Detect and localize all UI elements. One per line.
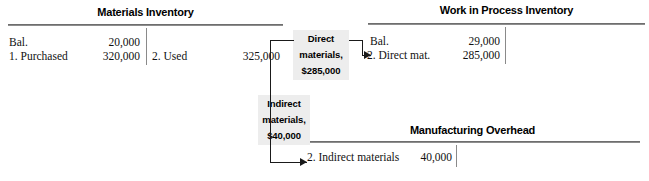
entry-amount-wip-direct-mat: 285,000	[420, 49, 500, 61]
indirect-materials-callout: Indirect materials, $40,000	[258, 95, 310, 145]
connector-direct-materials-drop	[362, 40, 363, 55]
indirect-materials-callout-line1: Indirect	[258, 96, 310, 112]
entry-amount-wip-bal: 29,000	[420, 35, 500, 47]
entry-amount-materials-bal: 20,000	[60, 36, 140, 48]
indirect-materials-callout-line3: $40,000	[258, 128, 310, 144]
arrowhead-to-work-in-process	[364, 51, 371, 59]
account-divider-work-in-process-inventory	[505, 27, 506, 64]
account-rule-materials-inventory	[8, 24, 283, 26]
entry-label-materials-bal: Bal.	[9, 36, 28, 48]
account-title-manufacturing-overhead: Manufacturing Overhead	[305, 124, 640, 136]
t-account-flow-diagram: Materials Inventory Bal. 20,000 1. Purch…	[0, 0, 649, 181]
entry-label-materials-purchased: 1. Purchased	[9, 50, 68, 62]
connector-materials-used-spine	[270, 40, 271, 162]
entry-amount-moh-indirect-materials: 40,000	[408, 151, 452, 163]
connector-to-direct-materials-callout	[270, 40, 294, 41]
account-title-materials-inventory: Materials Inventory	[8, 6, 283, 18]
indirect-materials-callout-line2: materials,	[258, 112, 310, 128]
entry-amount-materials-purchased: 320,000	[60, 50, 140, 62]
entry-label-materials-used: 2. Used	[152, 50, 187, 62]
account-divider-manufacturing-overhead	[456, 145, 457, 167]
direct-materials-callout: Direct materials, $285,000	[293, 30, 349, 80]
direct-materials-callout-line1: Direct	[293, 31, 349, 47]
direct-materials-callout-line3: $285,000	[293, 63, 349, 79]
direct-materials-callout-line2: materials,	[293, 47, 349, 63]
account-rule-manufacturing-overhead	[305, 141, 640, 143]
entry-label-moh-indirect-materials: 2. Indirect materials	[307, 151, 399, 163]
entry-label-wip-bal: Bal.	[370, 35, 389, 47]
account-rule-work-in-process-inventory	[368, 23, 645, 25]
connector-direct-materials-out	[349, 40, 363, 41]
entry-amount-materials-used: 325,000	[200, 50, 280, 62]
account-title-work-in-process-inventory: Work in Process Inventory	[368, 4, 645, 16]
account-divider-materials-inventory	[146, 28, 147, 65]
arrowhead-to-manufacturing-overhead	[300, 158, 307, 166]
